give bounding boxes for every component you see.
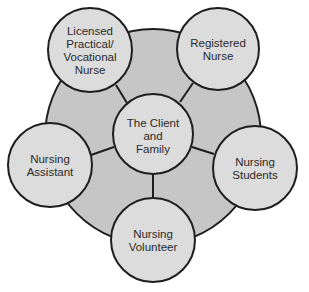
center-node-client-family [113, 94, 193, 174]
diagram-canvas [0, 0, 309, 292]
node-nursing-volunteer [111, 198, 195, 282]
node-lpn [48, 8, 132, 92]
node-rn [177, 8, 259, 90]
node-nursing-assistant [8, 123, 92, 207]
care-team-diagram: The Client and Family Licensed Practical… [0, 0, 309, 292]
node-nursing-students [213, 126, 297, 210]
